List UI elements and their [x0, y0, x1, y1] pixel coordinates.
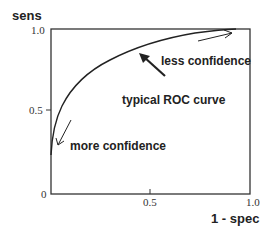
roc-chart: sens 1 - spec 1.0 0.5 0 0.5 1.0 less con…	[0, 0, 272, 237]
more-confidence-arrow	[56, 120, 71, 145]
typical-curve-label: typical ROC curve	[122, 93, 226, 107]
y-tick-label-bottom: 0	[41, 188, 47, 200]
y-tick-label-top: 1.0	[31, 24, 45, 36]
x-tick-label-mid: 0.5	[143, 196, 157, 208]
y-axis-label: sens	[12, 8, 42, 23]
y-tick-label-mid: 0.5	[29, 104, 43, 116]
roc-curve	[51, 29, 236, 155]
more-confidence-label: more confidence	[70, 139, 166, 153]
less-confidence-label: less confidence	[161, 54, 251, 68]
x-axis-label: 1 - spec	[211, 211, 259, 226]
x-tick-label-right: 1.0	[246, 196, 260, 208]
